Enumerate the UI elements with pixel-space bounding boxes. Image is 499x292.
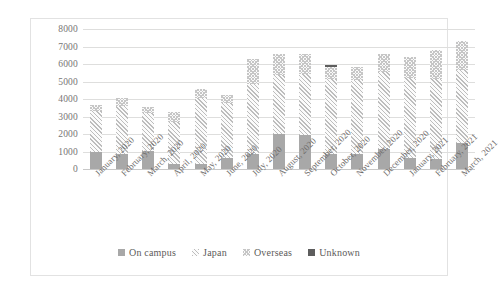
legend-item-unknown[interactable]: Unknown [308,247,360,258]
bar-segment-overseas [247,59,259,84]
y-axis-tick-label: 8000 [58,24,78,34]
bar-segment-overseas [273,54,285,75]
legend-swatch-icon [243,249,250,256]
legend-swatch-icon [308,249,315,256]
legend-item-overseas[interactable]: Overseas [243,247,292,258]
y-axis-tick-label: 3000 [58,112,78,122]
legend-label: Japan [203,247,227,258]
bar-segment-overseas [195,89,207,98]
bar-segment-overseas [325,67,337,79]
legend-item-on-campus[interactable]: On campus [118,247,176,258]
bar-segment-japan [299,74,311,135]
bar-segment-japan [456,70,468,143]
chart-legend: On campusJapanOverseasUnknown [31,247,447,258]
stacked-bar[interactable] [90,29,102,169]
bar-segment-overseas [299,54,311,74]
bar-segment-overseas [351,67,363,81]
bar-segment-overseas [456,41,468,70]
bar-segment-overseas [404,57,416,78]
bar-segment-japan [90,111,102,152]
legend-label: On campus [129,247,176,258]
bar-segment-overseas [168,112,180,122]
y-axis-tick-label: 0 [73,164,78,174]
bar-segment-overseas [221,95,233,103]
chart-container: 800070006000500040003000200010000 Januar… [30,18,448,276]
y-axis-tick-label: 4000 [58,94,78,104]
bar-segment-overseas [116,98,128,106]
legend-item-japan[interactable]: Japan [192,247,227,258]
legend-swatch-icon [118,249,125,256]
legend-label: Overseas [254,247,292,258]
y-axis-tick-label: 2000 [58,129,78,139]
legend-swatch-icon [192,249,199,256]
bar-segment-overseas [378,54,390,72]
bar-slot [83,29,109,169]
y-axis-tick-label: 1000 [58,147,78,157]
legend-label: Unknown [319,247,360,258]
bar-segment-japan [273,75,285,135]
y-axis-tick-label: 6000 [58,59,78,69]
y-axis-tick-label: 5000 [58,77,78,87]
y-axis-tick-label: 7000 [58,42,78,52]
bar-segment-overseas [430,50,442,79]
